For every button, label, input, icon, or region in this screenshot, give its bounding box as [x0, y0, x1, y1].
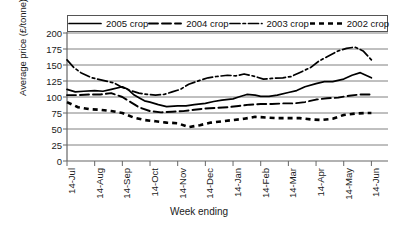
plot-area [0, 0, 398, 230]
legend-swatch-dashed-icon [148, 19, 182, 28]
legend-entry[interactable]: 2004 crop [148, 18, 228, 29]
legend-entry[interactable]: 2005 crop [68, 18, 148, 29]
series-line-2004-crop [67, 93, 371, 112]
legend-entry[interactable]: 2003 crop [229, 18, 309, 29]
series-line-2003-crop [67, 47, 371, 95]
legend-swatch-dashdot-icon [229, 19, 263, 28]
legend-label: 2003 crop [267, 18, 309, 29]
legend-label: 2002 crop [347, 18, 389, 29]
x-axis-title: Week ending [0, 206, 398, 217]
chart-container: Average price (£/tonne) 0255075100125150… [0, 0, 398, 230]
x-axis-ticks [67, 161, 371, 166]
chart-legend: 2005 crop2004 crop2003 crop2002 crop [67, 15, 388, 32]
data-series [67, 47, 371, 127]
legend-swatch-solid-icon [68, 19, 102, 28]
legend-label: 2005 crop [106, 18, 148, 29]
legend-swatch-dotted-icon [309, 19, 343, 28]
series-line-2002-crop [67, 102, 371, 127]
legend-label: 2004 crop [186, 18, 228, 29]
legend-entry[interactable]: 2002 crop [309, 18, 389, 29]
series-line-2005-crop [67, 73, 371, 107]
